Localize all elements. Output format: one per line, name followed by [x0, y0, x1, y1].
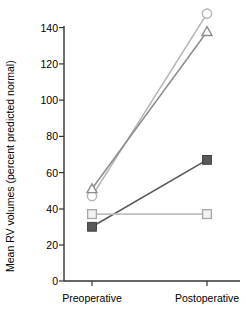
y-tick-label-100: 100	[40, 94, 58, 106]
x-tick-label-preoperative: Preoperative	[62, 292, 122, 304]
chart-container: Mean RV volumes (percent predicted norma…	[0, 0, 246, 321]
marker-filled-square-postoperative	[203, 156, 212, 165]
y-tick-label-60: 60	[46, 167, 58, 179]
marker-open-square-postoperative	[203, 210, 212, 219]
marker-open-circle-postoperative	[202, 9, 211, 18]
y-tick-label-120: 120	[40, 58, 58, 70]
marker-filled-square-preoperative	[88, 222, 97, 231]
y-tick-label-40: 40	[46, 203, 58, 215]
line-chart: Mean RV volumes (percent predicted norma…	[0, 0, 246, 321]
y-axis-title: Mean RV volumes (percent predicted norma…	[4, 60, 16, 272]
y-tick-label-0: 0	[52, 275, 58, 287]
marker-open-square-preoperative	[88, 210, 97, 219]
y-tick-label-80: 80	[46, 130, 58, 142]
y-tick-label-140: 140	[40, 22, 58, 34]
y-tick-label-20: 20	[46, 239, 58, 251]
x-tick-label-postoperative: Postoperative	[175, 292, 239, 304]
